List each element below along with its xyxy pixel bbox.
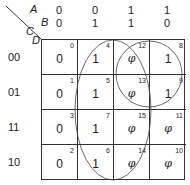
grouping-loops [0,0,190,185]
group-loop-b [75,40,151,180]
group-loop-ac [116,41,182,107]
